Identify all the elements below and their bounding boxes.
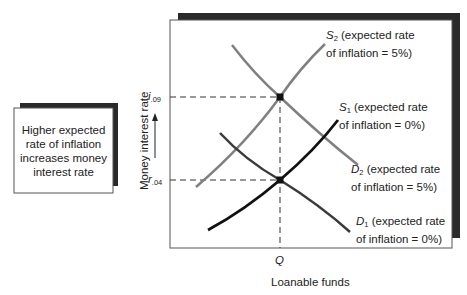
d2-label-line2: of inflation = 5%)	[351, 180, 440, 194]
note-box-text: Higher expected rate of inflation increa…	[14, 108, 113, 193]
y-tick-r04: r.04	[148, 172, 162, 190]
s1-label-line2: of inflation = 0%)	[339, 118, 428, 132]
s1-label: S1 (expected rate of inflation = 0%)	[339, 100, 428, 132]
d1-label-line2: of inflation = 0%)	[356, 232, 445, 246]
d2-label: D2 (expected rate of inflation = 5%)	[351, 162, 440, 194]
y-tick-r04-sub: .04	[152, 178, 162, 187]
x-tick-q: Q	[275, 253, 284, 267]
s2-label-line2: of inflation = 5%)	[326, 46, 415, 60]
s2-label-line1: (expected rate	[338, 29, 415, 41]
x-axis-label: Loanable funds	[271, 275, 350, 289]
x-tick-q-text: Q	[275, 254, 284, 266]
s1-label-line1: (expected rate	[351, 101, 428, 113]
s2-label: S2 (expected rate of inflation = 5%)	[326, 28, 415, 60]
s1-label-letter: S	[339, 101, 347, 113]
equilibrium-point-low	[277, 177, 284, 184]
d1-label-line1: (expected rate	[368, 215, 445, 227]
d1-label: D1 (expected rate of inflation = 0%)	[356, 214, 445, 246]
d2-label-line1: (expected rate	[363, 163, 440, 175]
equilibrium-point-high	[277, 94, 284, 101]
y-tick-i09: i.09	[148, 89, 161, 107]
up-arrow-icon	[152, 113, 158, 121]
y-tick-i09-sub: .09	[151, 95, 161, 104]
s2-label-letter: S	[326, 29, 334, 41]
